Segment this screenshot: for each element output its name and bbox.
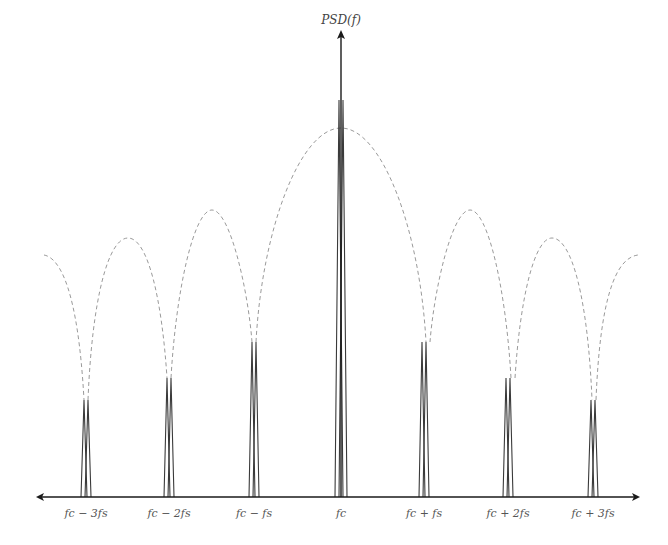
- psd-diagram: PSD(f) fc − 3fs fc − 2fs fc − fs fc fc +…: [0, 0, 668, 545]
- peak-fc-plus-3fs: [588, 400, 598, 497]
- y-axis: [337, 30, 345, 497]
- envelope-lobe-m2-m1: [171, 210, 252, 378]
- envelope-lobe-left-edge: [44, 255, 84, 400]
- peak-fc-plus-fs: [419, 342, 429, 497]
- envelope-lobe-p2-p3: [515, 238, 592, 400]
- x-label-fc-minus-2fs: fc − 2fs: [146, 507, 191, 520]
- x-axis-labels: fc − 3fs fc − 2fs fc − fs fc fc + fs fc …: [63, 507, 615, 520]
- x-label-fc-plus-fs: fc + fs: [405, 507, 443, 520]
- peak-fc-plus-2fs: [503, 378, 513, 497]
- peak-fc-minus-fs: [249, 342, 259, 497]
- envelope-lobe-m3-m2: [88, 238, 167, 400]
- x-label-fc-minus-fs: fc − fs: [235, 507, 273, 520]
- x-label-fc-plus-2fs: fc + 2fs: [485, 507, 530, 520]
- y-axis-label: PSD(f): [320, 13, 361, 27]
- envelope-lobe-right-edge: [596, 255, 638, 400]
- x-label-fc-plus-3fs: fc + 3fs: [570, 507, 615, 520]
- x-label-fc: fc: [335, 507, 346, 520]
- spectral-peaks: [81, 100, 598, 497]
- x-label-fc-minus-3fs: fc − 3fs: [63, 507, 108, 520]
- envelope-lobe-p1-p2: [430, 210, 511, 378]
- peak-fc-minus-3fs: [81, 400, 91, 497]
- x-axis: [36, 493, 640, 501]
- peak-fc-minus-2fs: [164, 378, 174, 497]
